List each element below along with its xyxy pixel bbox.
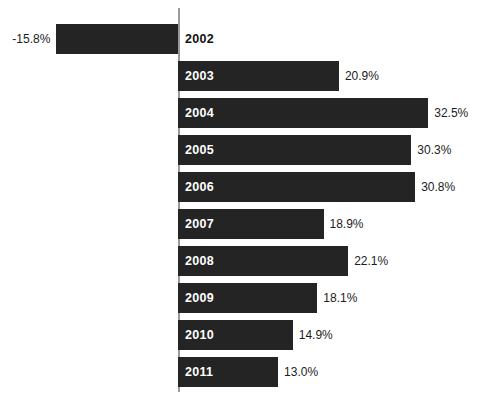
bar-row: 201014.9% xyxy=(0,320,492,350)
year-label-2007: 2007 xyxy=(185,209,214,239)
bar-row: 2002-15.8% xyxy=(0,24,492,54)
value-label-2011: 13.0% xyxy=(284,357,318,387)
bar-row: 200432.5% xyxy=(0,98,492,128)
bar-row: 200718.9% xyxy=(0,209,492,239)
year-label-2004: 2004 xyxy=(185,98,214,128)
bar-row: 200630.8% xyxy=(0,172,492,202)
bar-2002[interactable] xyxy=(56,24,178,54)
value-label-2006: 30.8% xyxy=(421,172,455,202)
value-label-2008: 22.1% xyxy=(354,246,388,276)
value-label-2003: 20.9% xyxy=(345,61,379,91)
year-label-2011: 2011 xyxy=(185,357,213,387)
value-label-2009: 18.1% xyxy=(323,283,357,313)
value-label-2004: 32.5% xyxy=(434,98,468,128)
bar-2004[interactable] xyxy=(178,98,428,128)
bar-row: 200918.1% xyxy=(0,283,492,313)
year-label-2008: 2008 xyxy=(185,246,214,276)
value-label-2005: 30.3% xyxy=(417,135,451,165)
value-label-2007: 18.9% xyxy=(330,209,364,239)
year-label-2002: 2002 xyxy=(185,24,214,54)
year-label-2006: 2006 xyxy=(185,172,214,202)
value-label-2010: 14.9% xyxy=(299,320,333,350)
year-label-2010: 2010 xyxy=(185,320,214,350)
bar-row: 200530.3% xyxy=(0,135,492,165)
value-label-2002: -15.8% xyxy=(0,24,50,54)
bar-chart: 2002-15.8%200320.9%200432.5%200530.3%200… xyxy=(0,0,492,408)
bar-row: 200822.1% xyxy=(0,246,492,276)
bar-row: 200320.9% xyxy=(0,61,492,91)
year-label-2005: 2005 xyxy=(185,135,214,165)
year-label-2009: 2009 xyxy=(185,283,214,313)
bar-row: 201113.0% xyxy=(0,357,492,387)
year-label-2003: 2003 xyxy=(185,61,214,91)
